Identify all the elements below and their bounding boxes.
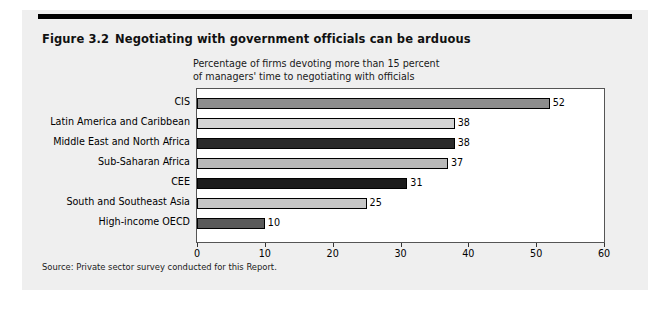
- bar: [197, 138, 455, 149]
- bar-value-label: 10: [265, 217, 280, 228]
- bar: [197, 198, 367, 209]
- x-tick-label: 0: [194, 248, 200, 259]
- bar-row: 38: [197, 134, 604, 154]
- x-tick-mark: [333, 243, 334, 247]
- title-rule: [38, 14, 632, 19]
- figure-number: Figure 3.2: [42, 32, 109, 46]
- chart-subtitle-line-2: of managers' time to negotiating with of…: [193, 71, 439, 84]
- category-label: High-income OECD: [30, 216, 190, 227]
- figure-panel: Figure 3.2Negotiating with government of…: [22, 10, 648, 290]
- chart-subtitle-line-1: Percentage of firms devoting more than 1…: [193, 58, 439, 71]
- bar-value-label: 52: [550, 97, 565, 108]
- category-axis-labels: CISLatin America and CaribbeanMiddle Eas…: [30, 88, 190, 243]
- category-label: CIS: [30, 96, 190, 107]
- figure-title: Figure 3.2Negotiating with government of…: [42, 32, 471, 46]
- category-label: South and Southeast Asia: [30, 196, 190, 207]
- bar: [197, 218, 265, 229]
- plot-area: 52383837312510: [196, 88, 605, 243]
- bar-value-label: 31: [407, 177, 422, 188]
- category-label: Sub-Saharan Africa: [30, 156, 190, 167]
- x-tick-label: 60: [598, 248, 610, 259]
- x-tick-label: 20: [327, 248, 339, 259]
- bar: [197, 178, 407, 189]
- bar-row: 52: [197, 94, 604, 114]
- x-tick-mark: [401, 243, 402, 247]
- bar-value-label: 38: [455, 117, 470, 128]
- bar: [197, 98, 550, 109]
- x-tick-label: 50: [530, 248, 542, 259]
- bar-row: 38: [197, 114, 604, 134]
- category-label: CEE: [30, 176, 190, 187]
- chart-subtitle: Percentage of firms devoting more than 1…: [193, 58, 439, 83]
- category-label: Middle East and North Africa: [30, 136, 190, 147]
- x-tick-mark: [468, 243, 469, 247]
- bar-value-label: 25: [367, 197, 382, 208]
- x-tick-mark: [265, 243, 266, 247]
- bar-value-label: 38: [455, 137, 470, 148]
- bar-row: 10: [197, 214, 604, 234]
- bar-row: 31: [197, 174, 604, 194]
- bar: [197, 158, 448, 169]
- source-note: Source: Private sector survey conducted …: [42, 262, 277, 272]
- x-tick-label: 10: [259, 248, 271, 259]
- bar: [197, 118, 455, 129]
- x-tick-mark: [197, 243, 198, 247]
- x-tick-label: 40: [462, 248, 474, 259]
- bar-row: 37: [197, 154, 604, 174]
- bars-layer: 52383837312510: [197, 89, 604, 242]
- x-tick-label: 30: [394, 248, 406, 259]
- x-tick-mark: [536, 243, 537, 247]
- x-tick-mark: [604, 243, 605, 247]
- category-label: Latin America and Caribbean: [30, 116, 190, 127]
- bar-row: 25: [197, 194, 604, 214]
- figure-title-text: Negotiating with government officials ca…: [115, 32, 471, 46]
- bar-value-label: 37: [448, 157, 463, 168]
